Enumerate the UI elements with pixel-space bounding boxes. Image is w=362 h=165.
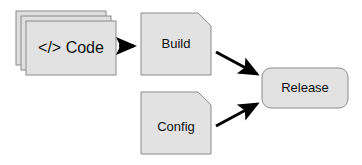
node-code[interactable]: </> Code — [16, 11, 116, 75]
node-code-label: </> Code — [38, 39, 104, 56]
flowchart-diagram: </> Code Build Config Release — [0, 0, 362, 165]
node-release[interactable]: Release — [262, 68, 348, 108]
edge-config-to-release — [216, 104, 257, 126]
node-release-label: Release — [281, 80, 329, 95]
node-config[interactable]: Config — [141, 92, 211, 154]
node-build[interactable]: Build — [141, 13, 211, 75]
edge-build-to-release-line — [216, 52, 257, 74]
node-config-label: Config — [157, 119, 195, 134]
node-build-label: Build — [162, 36, 191, 51]
edge-config-to-release-line — [216, 104, 257, 126]
edge-build-to-release — [216, 52, 257, 74]
diagram-canvas: </> Code Build Config Release — [0, 0, 362, 165]
